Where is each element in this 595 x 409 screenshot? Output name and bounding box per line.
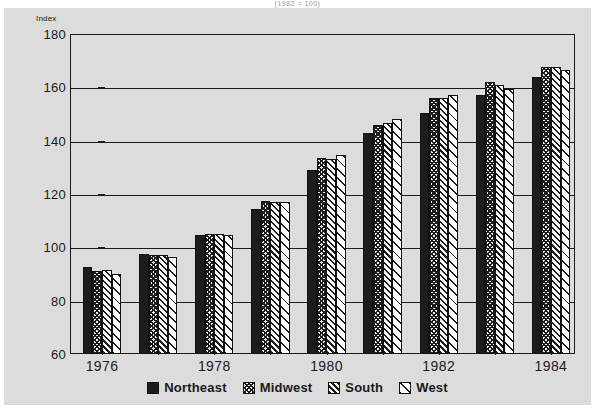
x-tick-label: 1978	[184, 358, 244, 374]
bar[interactable]	[551, 67, 561, 354]
legend-item-south[interactable]: South	[328, 380, 383, 395]
bar[interactable]	[92, 271, 102, 354]
clipped-header-text: (1982 = 100)	[0, 0, 595, 8]
bar[interactable]	[504, 89, 514, 354]
bar-group	[251, 34, 289, 354]
bar[interactable]	[373, 125, 383, 354]
chart-legend: NortheastMidwestSouthWest	[0, 380, 595, 395]
y-axis-tick-labels: 1801601401201008060	[28, 34, 66, 354]
bar[interactable]	[476, 95, 486, 354]
y-tick-label: 100	[32, 240, 66, 255]
bar[interactable]	[102, 270, 112, 354]
legend-item-northeast[interactable]: Northeast	[147, 380, 226, 395]
bar-group	[139, 34, 177, 354]
bar[interactable]	[251, 209, 261, 354]
bar[interactable]	[261, 201, 271, 354]
x-tick-label: 1982	[409, 358, 469, 374]
bar-group	[532, 34, 570, 354]
bar[interactable]	[139, 254, 149, 354]
bar[interactable]	[224, 235, 234, 354]
bar-group	[476, 34, 514, 354]
bar[interactable]	[561, 70, 571, 354]
dense-crosshatch-swatch	[243, 382, 255, 394]
y-tick-label: 80	[32, 293, 66, 308]
bar[interactable]	[280, 202, 290, 354]
bar[interactable]	[158, 255, 168, 354]
bar[interactable]	[363, 133, 373, 354]
bar[interactable]	[83, 267, 93, 354]
bar[interactable]	[420, 113, 430, 354]
chart-figure: (1982 = 100) Index 1801601401201008060 1…	[0, 0, 595, 409]
bar[interactable]	[485, 82, 495, 354]
diagonal-hatch-swatch	[328, 382, 340, 394]
bar[interactable]	[149, 255, 159, 354]
x-axis-tick-labels: 19761978198019821984	[70, 358, 575, 378]
bar-group	[83, 34, 121, 354]
bar-group	[420, 34, 458, 354]
bar[interactable]	[532, 77, 542, 354]
y-tick-label: 60	[32, 347, 66, 362]
legend-label: South	[345, 380, 383, 395]
solid-dark-swatch	[147, 382, 159, 394]
x-tick-label: 1980	[297, 358, 357, 374]
y-axis-title: Index	[36, 14, 57, 23]
bar[interactable]	[439, 98, 449, 354]
bar[interactable]	[495, 85, 505, 354]
bar-group	[363, 34, 401, 354]
legend-item-midwest[interactable]: Midwest	[243, 380, 313, 395]
x-tick-label: 1976	[72, 358, 132, 374]
bar[interactable]	[195, 235, 205, 354]
bar[interactable]	[336, 155, 346, 354]
bar[interactable]	[112, 274, 122, 354]
sparse-diagonal-hatch-swatch	[399, 382, 411, 394]
bar[interactable]	[383, 123, 393, 354]
bar[interactable]	[392, 119, 402, 354]
bar-group	[195, 34, 233, 354]
legend-label: West	[416, 380, 448, 395]
bar[interactable]	[168, 257, 178, 354]
y-tick-label: 140	[32, 133, 66, 148]
x-tick-label: 1984	[521, 358, 581, 374]
legend-label: Northeast	[164, 380, 226, 395]
bar-series-container	[70, 34, 575, 354]
bar-group	[307, 34, 345, 354]
bar[interactable]	[270, 202, 280, 354]
y-tick-label: 160	[32, 80, 66, 95]
bar[interactable]	[541, 67, 551, 354]
bar[interactable]	[429, 98, 439, 354]
bar[interactable]	[307, 170, 317, 354]
y-tick-label: 120	[32, 187, 66, 202]
bar[interactable]	[448, 95, 458, 354]
legend-item-west[interactable]: West	[399, 380, 448, 395]
bar[interactable]	[317, 158, 327, 354]
bar[interactable]	[214, 234, 224, 354]
bar[interactable]	[205, 234, 215, 354]
y-tick-label: 180	[32, 27, 66, 42]
legend-label: Midwest	[260, 380, 313, 395]
bar[interactable]	[326, 159, 336, 354]
